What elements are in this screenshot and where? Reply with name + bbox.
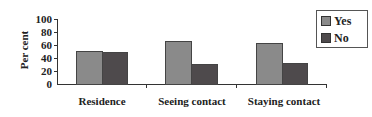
y-axis-tick <box>54 45 58 46</box>
y-tick: 20 <box>30 66 52 76</box>
x-category-label: Seeing contact <box>142 95 242 107</box>
legend-swatch-no <box>321 33 331 43</box>
x-axis-tick <box>326 84 327 88</box>
bar-chart: Per cent 100 80 60 40 20 0 Residence See… <box>0 0 372 117</box>
legend-label: Yes <box>334 14 351 29</box>
x-category-label: Staying contact <box>234 95 334 107</box>
y-axis-tick <box>54 58 58 59</box>
legend-item-no: No <box>321 31 349 45</box>
legend-item-yes: Yes <box>321 14 351 28</box>
bar-seeing-yes <box>165 41 192 85</box>
y-axis-tick <box>54 32 58 33</box>
bar-staying-yes <box>256 43 283 85</box>
y-tick: 80 <box>30 27 52 37</box>
bar-seeing-no <box>191 64 218 85</box>
y-tick: 100 <box>30 14 52 24</box>
bar-residence-yes <box>76 51 103 85</box>
y-tick: 40 <box>30 53 52 63</box>
y-tick: 0 <box>30 79 52 89</box>
legend: Yes No <box>316 10 368 48</box>
legend-swatch-yes <box>321 16 331 26</box>
y-axis <box>57 19 58 84</box>
x-axis-tick <box>236 84 237 88</box>
y-axis-tick <box>54 71 58 72</box>
x-category-label: Residence <box>52 95 152 107</box>
y-axis-tick <box>54 19 58 20</box>
bar-residence-no <box>102 52 128 85</box>
legend-label: No <box>334 31 349 46</box>
x-axis-tick <box>146 84 147 88</box>
bar-staying-no <box>282 63 308 85</box>
y-tick: 60 <box>30 40 52 50</box>
